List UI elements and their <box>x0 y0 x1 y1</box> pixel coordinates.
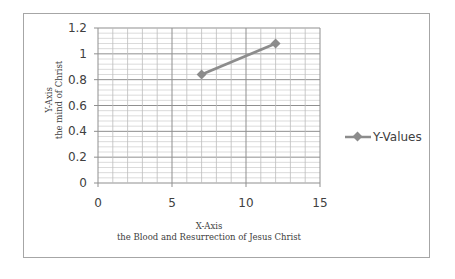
x-axis-title-line2: the Blood and Resurrection of Jesus Chri… <box>117 232 302 242</box>
y-tick-label: 0.6 <box>68 99 87 113</box>
chart-canvas: 00.20.40.60.811.2 051015 Y-Axis the mind… <box>0 0 455 279</box>
y-tick-label: 0.2 <box>68 150 87 164</box>
plot-gridlines <box>94 28 320 187</box>
x-tick-label: 15 <box>312 196 327 210</box>
x-tick-label: 10 <box>238 196 253 210</box>
legend-diamond-marker-icon <box>353 132 363 142</box>
x-axis-ticks: 051015 <box>94 196 327 210</box>
x-tick-label: 5 <box>168 196 176 210</box>
y-axis-title: Y-Axis the mind of Christ <box>44 60 64 139</box>
y-tick-label: 0.4 <box>68 124 87 138</box>
y-tick-label: 1.2 <box>68 21 87 35</box>
legend: Y-Values <box>345 130 422 144</box>
y-tick-label: 1 <box>79 47 87 61</box>
x-axis-title-line1: X-Axis <box>196 221 223 231</box>
x-axis-title: X-Axis the Blood and Resurrection of Jes… <box>117 221 302 242</box>
y-tick-label: 0.8 <box>68 73 87 87</box>
y-tick-label: 0 <box>79 176 87 190</box>
legend-label: Y-Values <box>372 130 422 144</box>
y-axis-title-line1: Y-Axis <box>44 87 54 114</box>
y-axis-title-line2: the mind of Christ <box>54 60 64 139</box>
data-point-diamond-icon <box>271 39 281 49</box>
data-point-diamond-icon <box>197 70 207 80</box>
y-axis-ticks: 00.20.40.60.811.2 <box>68 21 87 190</box>
x-tick-label: 0 <box>94 196 102 210</box>
